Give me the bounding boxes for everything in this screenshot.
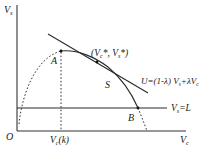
utility-tangent-line [48, 34, 148, 93]
tangent-point-marker [96, 61, 99, 64]
origin-label: O [6, 131, 13, 142]
tangent-point-label: (Vc*, Vs*) [91, 48, 128, 59]
y-axis-label: Vs [4, 4, 13, 16]
frontier-dotted-right [138, 108, 147, 131]
point-a-marker [60, 50, 63, 53]
x-axis-label: Vc [180, 134, 189, 146]
point-s-label: S [105, 79, 110, 90]
frontier-solid [61, 51, 138, 108]
point-a-label: A [50, 55, 58, 66]
x-tick-label-vck: Vc(k) [50, 135, 69, 146]
point-b-marker [137, 107, 140, 110]
diagram-canvas: Vs O Vc Vc(k) A B S (Vc*, Vs*) U=(1-λ) V… [0, 0, 208, 156]
point-b-label: B [128, 112, 134, 123]
threshold-line-label: Vs=L [171, 103, 191, 114]
utility-line-label: U=(1-λ) Vs+λVc [141, 76, 199, 87]
